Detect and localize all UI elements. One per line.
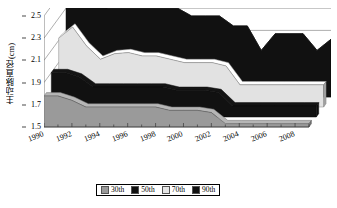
x-axis-tick-label: 2002 xyxy=(194,130,212,143)
x-axis-tick-label: 1998 xyxy=(139,130,157,143)
legend-swatch-icon xyxy=(101,186,109,194)
x-axis-tick-label: 2004 xyxy=(222,130,240,143)
legend-item[interactable]: 90th xyxy=(192,186,215,194)
legend-label: 30th xyxy=(111,186,124,194)
x-axis-tick-label: 1996 xyxy=(111,130,129,143)
legend-label: 50th xyxy=(141,186,154,194)
chart-legend: 30th50th70th90th xyxy=(96,184,220,196)
x-axis-tick-label: 2006 xyxy=(250,130,268,143)
legend-item[interactable]: 70th xyxy=(162,186,185,194)
legend-swatch-icon xyxy=(162,186,170,194)
legend-label: 70th xyxy=(172,186,185,194)
legend-item[interactable]: 50th xyxy=(131,186,154,194)
chart-container: 主动脉直径(cm) 1.51.71.92.12.32.5 19901992199… xyxy=(0,0,337,208)
legend-swatch-icon xyxy=(192,186,200,194)
x-axis-tick-label: 1994 xyxy=(83,130,101,143)
x-axis-tick-label: 1992 xyxy=(55,130,73,143)
x-axis-tick-label: 2008 xyxy=(278,130,296,143)
legend-swatch-icon xyxy=(131,186,139,194)
x-axis-tick-label: 1990 xyxy=(27,130,45,143)
x-axis-tick-group: 1990199219941996199820002002200420062008 xyxy=(0,0,337,208)
x-axis-tick-label: 2000 xyxy=(166,130,184,143)
legend-item[interactable]: 30th xyxy=(101,186,124,194)
legend-label: 90th xyxy=(202,186,215,194)
